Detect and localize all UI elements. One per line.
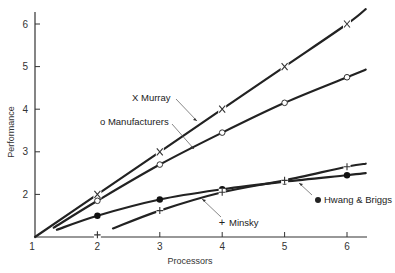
open-circle-marker-icon	[344, 74, 350, 80]
x-tick-label: 4	[219, 241, 225, 252]
annotation-hwang-briggs: Hwang & Briggs	[299, 183, 392, 205]
arrowhead-icon	[299, 183, 303, 186]
filled-circle-marker-icon	[94, 213, 100, 219]
minsky-label: Minsky	[229, 217, 259, 228]
x-tick-label: 3	[157, 241, 163, 252]
murray-label: X Murray	[132, 92, 171, 103]
x-axis-title: Processors	[167, 256, 213, 266]
annotation-minsky: + Minsky	[202, 199, 259, 228]
origin-label: 1	[29, 241, 35, 252]
x-marker-icon	[281, 63, 289, 71]
minsky-arrow	[202, 199, 221, 217]
plus-marker-icon	[344, 163, 351, 170]
plus-marker-icon	[219, 189, 226, 196]
annotation-manufacturers: o Manufacturers	[100, 116, 194, 149]
x-tick-label: 5	[282, 241, 288, 252]
filled-circle-icon	[315, 197, 321, 203]
filled-circle-marker-icon	[344, 172, 350, 178]
x-marker-icon	[343, 20, 351, 28]
line-manufacturers	[54, 70, 366, 228]
plus-marker-icon	[156, 207, 163, 214]
plus-icon: +	[219, 216, 225, 228]
x-tick-label: 6	[344, 241, 350, 252]
y-tick-label: 5	[22, 61, 28, 72]
arrowhead-icon	[193, 118, 197, 121]
open-circle-marker-icon	[157, 162, 163, 168]
manufacturers-label: o Manufacturers	[100, 116, 169, 127]
murray-arrow	[176, 99, 197, 121]
plus-marker-icon	[281, 177, 288, 184]
x-tick-label: 2	[95, 241, 101, 252]
line-murray	[35, 9, 366, 237]
x-marker-icon	[93, 190, 101, 198]
performance-chart: 23456123456 Performance Processors X Mur…	[0, 0, 395, 273]
y-tick-label: 2	[22, 189, 28, 200]
plus-marker-icon	[94, 231, 101, 238]
y-tick-label: 3	[22, 146, 28, 157]
manufacturers-arrow	[172, 124, 194, 149]
y-axis-title: Performance	[6, 106, 16, 158]
y-tick-label: 6	[22, 19, 28, 30]
arrowhead-icon	[202, 199, 206, 202]
x-marker-icon	[156, 148, 164, 156]
open-circle-marker-icon	[95, 198, 101, 204]
y-tick-label: 4	[22, 104, 28, 115]
hwang-briggs-label: Hwang & Briggs	[324, 194, 392, 205]
open-circle-marker-icon	[219, 130, 225, 136]
series-lines	[35, 9, 366, 237]
open-circle-marker-icon	[282, 100, 288, 106]
x-marker-icon	[218, 105, 226, 113]
filled-circle-marker-icon	[157, 196, 163, 202]
